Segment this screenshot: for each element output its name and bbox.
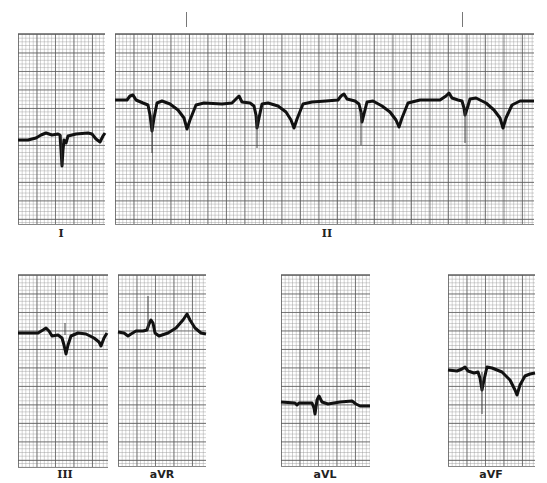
ecg-trace-lead-avf [0,0,547,483]
lead-label-avf: aVF [479,468,502,481]
